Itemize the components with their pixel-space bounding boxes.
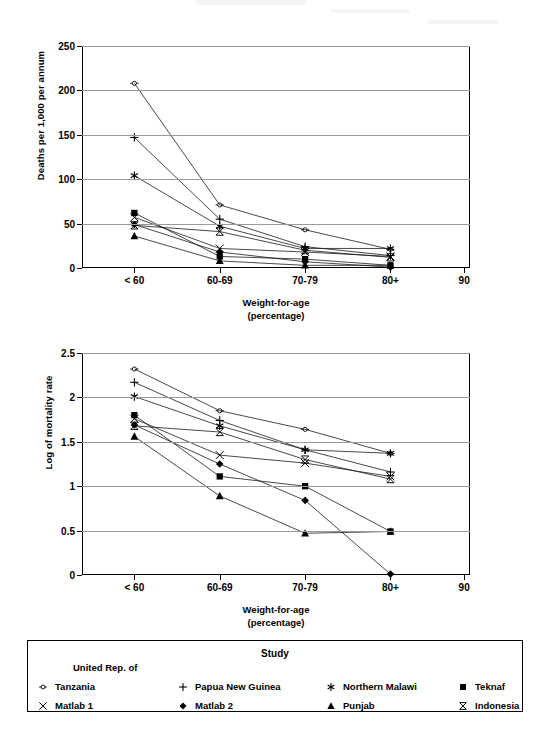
grid-line [82, 135, 470, 136]
legend-title: Study [28, 648, 522, 659]
data-point-triangle-filled [130, 432, 138, 439]
scan-artifact [196, 0, 306, 5]
y-tick-label: 1 [69, 481, 75, 492]
series-markers-indonesia [131, 422, 394, 483]
triangle-filled-icon [324, 699, 338, 713]
series-line-punjab [134, 436, 390, 533]
legend-item-label: Northern Malawi [343, 681, 417, 692]
legend-item-northern-malawi[interactable]: Northern Malawi [324, 680, 456, 694]
x-tick-label: 70-79 [292, 582, 318, 593]
plot-canvas-logmortality: 00.511.522.5< 6060-6970-7980+90 [82, 353, 470, 575]
x-tick-mark [390, 268, 391, 273]
data-point-circle-dash-open [39, 685, 47, 689]
data-point-circle-dash-open [130, 81, 138, 85]
series-markers-tanzania [130, 81, 394, 251]
x-tick-label: 90 [459, 582, 470, 593]
series-markers-northern-malawi [131, 172, 394, 253]
series-markers-matlab-2 [131, 421, 395, 578]
legend-item-label: Papua New Guinea [195, 681, 281, 692]
scan-artifact [330, 9, 410, 13]
x-tick-mark [220, 575, 221, 580]
circle-dash-open-icon [36, 680, 50, 694]
series-line-northern-malawi [134, 397, 390, 454]
legend-item-tanzania[interactable]: Tanzania [36, 680, 176, 694]
y-tick-mark [77, 90, 82, 91]
x-tick-mark [464, 268, 465, 273]
x-tick-mark [464, 575, 465, 580]
x-axis-title-logmortality: Weight-for-age (percentage) [82, 603, 470, 629]
y-tick-label: 1.5 [61, 436, 75, 447]
y-tick-label: 2 [69, 392, 75, 403]
y-tick-mark [77, 575, 82, 576]
grid-line [82, 531, 470, 532]
series-line-tanzania [134, 369, 390, 453]
y-tick-label: 250 [58, 41, 75, 52]
x-tick-label: 80+ [382, 582, 399, 593]
series-markers-teknaf [131, 210, 393, 269]
y-tick-mark [77, 135, 82, 136]
x-tick-mark [305, 268, 306, 273]
y-tick-mark [77, 268, 82, 269]
grid-line [82, 46, 470, 47]
grid-line [82, 397, 470, 398]
legend-item-label: Punjab [343, 700, 375, 711]
data-point-triangle-filled [216, 492, 224, 499]
figure-root: Deaths per 1,000 per annum 0501001502002… [0, 0, 550, 731]
chart-panel-deaths: Deaths per 1,000 per annum 0501001502002… [0, 18, 550, 318]
data-point-plus [386, 468, 394, 476]
series-layer-deaths [82, 46, 470, 268]
data-point-square-filled [460, 684, 466, 690]
legend-prefix-united-rep-of: United Rep. of [73, 662, 137, 673]
legend-item-indonesia[interactable]: Indonesia [456, 699, 550, 713]
data-point-triangle-filled [130, 232, 138, 239]
data-point-x-cross [39, 702, 46, 709]
x-axis-title-main: Weight-for-age [82, 296, 470, 309]
y-tick-label: 150 [58, 129, 75, 140]
x-tick-label: 70-79 [292, 275, 318, 286]
grid-line [82, 353, 470, 354]
legend-item-matlab-1[interactable]: Matlab 1 [36, 699, 176, 713]
x-tick-label: 60-69 [207, 275, 233, 286]
data-point-plus [130, 378, 138, 386]
legend-item-punjab[interactable]: Punjab [324, 699, 456, 713]
series-markers-northern-malawi [131, 392, 394, 457]
x-cross-icon [36, 699, 50, 713]
bowtie-open-icon [456, 699, 470, 713]
legend-item-matlab-2[interactable]: Matlab 2 [176, 699, 324, 713]
y-tick-mark [77, 353, 82, 354]
y-axis-title-logmortality: Log of mortality rate [43, 313, 54, 533]
series-line-indonesia [134, 225, 390, 257]
grid-line [82, 486, 470, 487]
grid-line [82, 442, 470, 443]
asterisk-icon [324, 680, 338, 694]
legend: Study United Rep. of TanzaniaPapua New G… [27, 640, 523, 712]
legend-items: TanzaniaPapua New GuineaNorthern MalawiT… [36, 677, 516, 715]
x-tick-mark [220, 268, 221, 273]
chart-panel-logmortality: Log of mortality rate 00.511.522.5< 6060… [0, 325, 550, 625]
y-tick-label: 0.5 [61, 525, 75, 536]
grid-line [82, 90, 470, 91]
series-markers-punjab [130, 432, 394, 536]
x-tick-label: 80+ [382, 275, 399, 286]
grid-line [82, 179, 470, 180]
data-point-diamond-filled [216, 460, 224, 468]
y-tick-mark [77, 486, 82, 487]
x-axis-title-sub: (percentage) [82, 616, 470, 629]
x-tick-label: < 60 [125, 275, 145, 286]
x-axis-title-sub: (percentage) [82, 309, 470, 322]
legend-item-teknaf[interactable]: Teknaf [456, 680, 550, 694]
y-axis-title-deaths: Deaths per 1,000 per annum [35, 6, 46, 226]
data-point-plus [179, 683, 187, 691]
legend-item-papua-new-guinea[interactable]: Papua New Guinea [176, 680, 324, 694]
plus-icon [176, 680, 190, 694]
series-markers-teknaf [131, 412, 393, 535]
data-point-square-filled [217, 473, 223, 479]
series-line-matlab-1 [134, 419, 390, 477]
series-line-teknaf [134, 213, 390, 265]
data-point-square-filled [131, 412, 137, 418]
y-tick-label: 50 [64, 218, 75, 229]
series-line-matlab-2 [134, 224, 390, 267]
series-line-northern-malawi [134, 176, 390, 249]
y-tick-mark [77, 531, 82, 532]
data-point-diamond-filled [179, 702, 186, 709]
